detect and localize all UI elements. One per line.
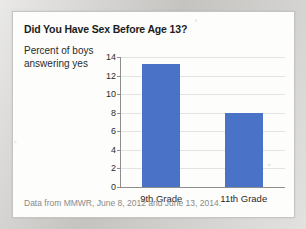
y-axis-caption: Percent of boys answering yes: [24, 45, 108, 70]
gridline-14: [120, 57, 285, 58]
plot-area: 02468101214 9th Grade11th Grade: [120, 57, 285, 187]
y-axis-caption-line-1: Percent of boys: [24, 45, 93, 56]
bar-11th-grade: [225, 113, 263, 187]
x-tick-label-11th-grade: 11th Grade: [220, 193, 267, 204]
y-tick-label-10: 10: [106, 89, 116, 99]
y-tick-label-4: 4: [111, 145, 116, 155]
y-axis-caption-line-2: answering yes: [24, 58, 88, 69]
y-tick-label-6: 6: [111, 126, 116, 136]
scanned-page-background: Did You Have Sex Before Age 13? Percent …: [0, 0, 306, 229]
chart-card: Did You Have Sex Before Age 13? Percent …: [12, 11, 295, 218]
bar-9th-grade: [142, 64, 180, 187]
y-tick-label-8: 8: [111, 108, 116, 118]
y-tick-label-14: 14: [106, 52, 116, 62]
y-tick-mark-0: [117, 187, 120, 188]
y-axis-line: [120, 57, 121, 187]
gridline-0: [120, 187, 285, 188]
y-tick-label-0: 0: [111, 182, 116, 192]
source-note: Data from MMWR, June 8, 2012 and June 13…: [24, 198, 221, 208]
y-tick-label-12: 12: [106, 71, 116, 81]
y-tick-label-2: 2: [111, 163, 116, 173]
page-title: Did You Have Sex Before Age 13?: [24, 23, 187, 35]
